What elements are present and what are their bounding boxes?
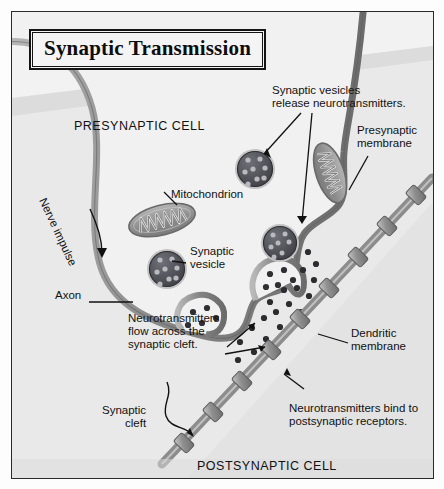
diagram-frame: PRESYNAPTIC CELL Synaptic vesicles relea… bbox=[0, 0, 444, 489]
diagram-canvas: PRESYNAPTIC CELL Synaptic vesicles relea… bbox=[11, 11, 434, 479]
label-bind-receptors: Neurotransmitters bind to postsynaptic r… bbox=[289, 402, 418, 428]
label-synaptic-cleft: Synaptic cleft bbox=[102, 404, 146, 430]
page-title: Synaptic Transmission bbox=[44, 36, 251, 61]
label-postsynaptic-cell: POSTSYNAPTIC CELL bbox=[197, 459, 337, 473]
label-presynaptic-cell: PRESYNAPTIC CELL bbox=[74, 119, 205, 133]
synaptic-vesicle bbox=[147, 249, 187, 289]
label-dendritic-membrane: Dendritic membrane bbox=[351, 327, 406, 353]
label-presynaptic-membrane: Presynaptic membrane bbox=[357, 124, 417, 150]
label-vesicles-release: Synaptic vesicles release neurotransmitt… bbox=[272, 84, 406, 110]
title-box: Synaptic Transmission bbox=[29, 29, 266, 70]
label-mitochondrion: Mitochondrion bbox=[171, 188, 243, 201]
label-synaptic-vesicle: Synaptic vesicle bbox=[190, 245, 234, 271]
label-axon: Axon bbox=[55, 289, 81, 302]
synaptic-vesicle bbox=[261, 224, 299, 262]
label-flow-across-cleft: Neurotransmitters flow across the synapt… bbox=[128, 312, 219, 351]
